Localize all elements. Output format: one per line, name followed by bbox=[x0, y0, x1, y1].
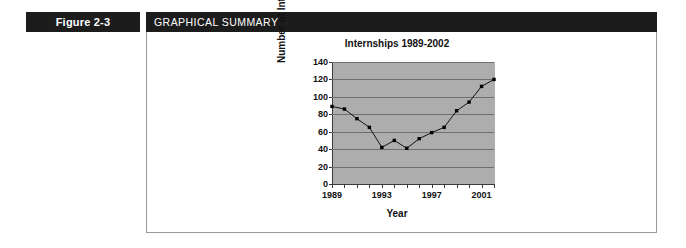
y-tick-label: 60 bbox=[318, 127, 328, 136]
data-point-marker bbox=[455, 109, 458, 112]
x-tick-mark bbox=[444, 184, 445, 188]
figure-content-frame: Internships 1989-2002 Number of Interns … bbox=[146, 32, 657, 233]
figure-number-label: Figure 2-3 bbox=[56, 17, 111, 28]
data-point-marker bbox=[492, 78, 495, 81]
data-point-marker bbox=[442, 126, 445, 129]
graphical-summary-banner: GRAPHICAL SUMMARY bbox=[146, 12, 657, 32]
x-tick-label: 1997 bbox=[422, 191, 442, 200]
y-tick-label: 20 bbox=[318, 162, 328, 171]
data-point-marker bbox=[467, 100, 470, 103]
data-point-marker bbox=[480, 85, 483, 88]
x-tick-mark bbox=[357, 184, 358, 188]
x-tick-mark bbox=[457, 184, 458, 188]
x-tick-mark bbox=[482, 184, 483, 188]
data-point-marker bbox=[355, 117, 358, 120]
data-point-marker bbox=[430, 131, 433, 134]
x-tick-mark bbox=[344, 184, 345, 188]
y-tick-label: 80 bbox=[318, 110, 328, 119]
x-tick-label: 1989 bbox=[322, 191, 342, 200]
x-tick-mark bbox=[432, 184, 433, 188]
chart-plot-area: 020406080100120140 1989199319972001 bbox=[332, 62, 494, 184]
series-polyline bbox=[332, 79, 494, 148]
data-point-marker bbox=[418, 137, 421, 140]
chart-x-axis-label: Year bbox=[282, 208, 512, 219]
x-tick-mark bbox=[419, 184, 420, 188]
x-tick-label: 2001 bbox=[472, 191, 492, 200]
chart-y-axis-label: Number of Interns bbox=[276, 0, 287, 80]
data-point-marker bbox=[368, 126, 371, 129]
internships-line-chart: Internships 1989-2002 Number of Interns … bbox=[282, 38, 512, 228]
x-tick-mark bbox=[369, 184, 370, 188]
x-tick-mark bbox=[394, 184, 395, 188]
y-tick-label: 100 bbox=[313, 92, 328, 101]
x-tick-label: 1993 bbox=[372, 191, 392, 200]
y-tick-label: 40 bbox=[318, 145, 328, 154]
y-tick-label: 120 bbox=[313, 75, 328, 84]
chart-title: Internships 1989-2002 bbox=[282, 38, 512, 50]
figure-number-tab: Figure 2-3 bbox=[26, 12, 140, 32]
x-tick-mark bbox=[494, 184, 495, 188]
series-line-interns bbox=[332, 62, 494, 184]
x-tick-mark bbox=[469, 184, 470, 188]
x-tick-mark bbox=[332, 184, 333, 188]
data-point-marker bbox=[330, 105, 333, 108]
graphical-summary-label: GRAPHICAL SUMMARY bbox=[146, 17, 278, 28]
data-point-marker bbox=[380, 146, 383, 149]
x-tick-mark bbox=[407, 184, 408, 188]
data-point-marker bbox=[343, 107, 346, 110]
figure-page: Figure 2-3 GRAPHICAL SUMMARY Internships… bbox=[0, 0, 686, 248]
y-tick-label: 0 bbox=[323, 180, 328, 189]
data-point-marker bbox=[405, 147, 408, 150]
y-tick-label: 140 bbox=[313, 58, 328, 67]
data-point-marker bbox=[393, 139, 396, 142]
x-tick-mark bbox=[382, 184, 383, 188]
